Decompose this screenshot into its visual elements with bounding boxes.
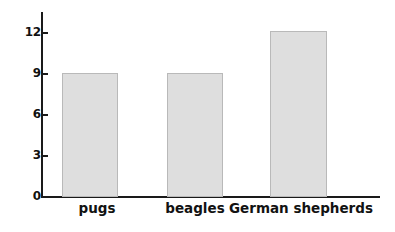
x-axis-label-beagles: beagles <box>158 201 232 216</box>
y-axis-label-3: 3 <box>13 149 41 161</box>
y-axis-label-12: 12 <box>13 26 41 38</box>
y-axis-label-9: 9 <box>13 67 41 79</box>
y-axis-tick-9 <box>43 73 48 75</box>
bar-beagles[interactable] <box>167 73 223 197</box>
y-axis-tick-12 <box>43 32 48 34</box>
y-axis-line <box>41 12 43 198</box>
bar-german-shepherds[interactable] <box>270 31 327 197</box>
y-axis-label-6: 6 <box>13 108 41 120</box>
bar-pugs[interactable] <box>62 73 118 197</box>
y-axis-label-0: 0 <box>13 190 41 202</box>
y-axis-tick-6 <box>43 114 48 116</box>
x-axis-label-german-shepherds: German shepherds <box>229 201 369 216</box>
bar-chart: 12 9 6 3 0 pugs beagles German shepherds <box>0 0 395 232</box>
y-axis-tick-3 <box>43 155 48 157</box>
x-axis-label-pugs: pugs <box>62 201 132 216</box>
